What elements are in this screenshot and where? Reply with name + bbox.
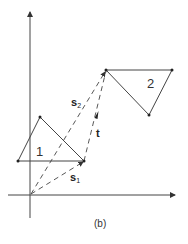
vector-t-label: t — [96, 127, 100, 139]
figure-caption: (b) — [94, 218, 106, 229]
triangle-2-label: 2 — [147, 76, 154, 91]
vector-s1-label: s1 — [70, 171, 80, 184]
triangle-1-label: 1 — [36, 144, 43, 159]
diagram-canvas: 1 2 s2 t s1 (b) — [0, 0, 188, 244]
triangle-2 — [106, 70, 172, 115]
vector-s2 — [31, 72, 105, 194]
vector-s2-label: s2 — [71, 96, 81, 109]
vector-t — [84, 71, 106, 161]
